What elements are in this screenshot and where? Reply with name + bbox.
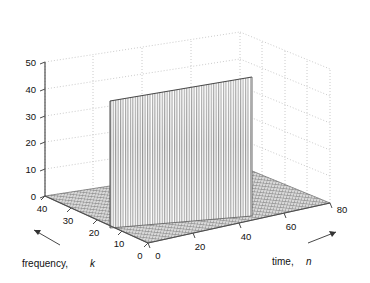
z-axis-ticks: 0 10 20 30 40 50 bbox=[25, 57, 45, 202]
frequency-axis-label-group: frequency, k bbox=[22, 230, 96, 269]
frequency-axis-label: frequency, bbox=[22, 258, 68, 269]
figure-3d-mesh-plot: 0 10 20 30 40 50 40 30 20 10 0 0 20 40 bbox=[0, 0, 370, 283]
time-tick-60: 60 bbox=[286, 221, 297, 232]
frequency-axis-variable: k bbox=[90, 258, 96, 269]
z-tick-30: 30 bbox=[25, 111, 36, 122]
frequency-tick-20: 20 bbox=[89, 227, 100, 238]
data-ridge-wall bbox=[110, 77, 252, 228]
frequency-tick-0: 0 bbox=[137, 250, 142, 261]
frequency-tick-40: 40 bbox=[37, 203, 48, 214]
z-tick-40: 40 bbox=[25, 84, 36, 95]
time-tick-20: 20 bbox=[195, 241, 206, 252]
time-axis-variable: n bbox=[306, 256, 312, 267]
z-tick-50: 50 bbox=[25, 57, 36, 68]
z-tick-0: 0 bbox=[31, 191, 36, 202]
time-tick-0: 0 bbox=[155, 250, 160, 261]
frequency-tick-30: 30 bbox=[63, 215, 74, 226]
time-tick-40: 40 bbox=[241, 231, 252, 242]
z-tick-20: 20 bbox=[25, 137, 36, 148]
time-axis-label-group: time, n bbox=[272, 231, 336, 267]
z-tick-10: 10 bbox=[25, 164, 36, 175]
frequency-axis-arrow bbox=[34, 230, 41, 235]
frequency-tick-10: 10 bbox=[114, 238, 125, 249]
time-tick-80: 80 bbox=[337, 204, 348, 215]
time-axis-label: time, bbox=[272, 256, 294, 267]
